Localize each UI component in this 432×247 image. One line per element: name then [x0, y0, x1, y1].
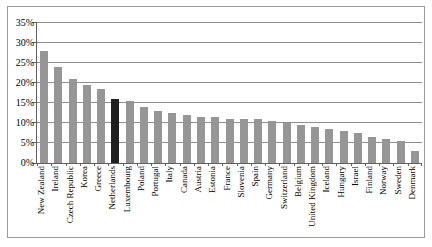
y-label-0%: 0% [8, 157, 34, 168]
x-axis-labels: New ZealandIrelandCzech RepublicKoreaGre… [36, 166, 421, 236]
x-label-spain: Spain [250, 166, 260, 191]
x-label-korea: Korea [79, 166, 89, 192]
x-label-text: Belgium [293, 166, 303, 197]
x-label-text: Switzerland [279, 166, 289, 209]
bar-greece [97, 89, 105, 163]
x-label-text: Portugal [150, 166, 160, 197]
y-label-35%: 35% [8, 17, 34, 28]
x-label-text: United Kingdom [307, 166, 317, 227]
x-label-text: Estonia [207, 166, 217, 193]
x-label-slovenia: Slovenia [236, 166, 246, 202]
x-label-portugal: Portugal [150, 166, 160, 201]
bar-korea [83, 85, 91, 163]
bar-france [226, 119, 234, 163]
bar-germany [268, 121, 276, 163]
bar-czech-republic [69, 79, 77, 163]
bar-iceland [325, 129, 333, 163]
bar-slovenia [240, 119, 248, 163]
y-label-15%: 15% [8, 97, 34, 108]
x-label-ireland: Ireland [50, 166, 60, 195]
y-label-10%: 10% [8, 117, 34, 128]
bar-belgium [297, 125, 305, 163]
x-label-text: Denmark [407, 166, 417, 200]
bar-netherlands [111, 99, 119, 163]
bar-austria [197, 117, 205, 163]
x-label-norway: Norway [378, 166, 388, 199]
bar-finland [368, 137, 376, 163]
bar-canada [183, 115, 191, 163]
y-label-20%: 20% [8, 77, 34, 88]
x-label-text: New Zealand [36, 166, 46, 214]
bar-luxembourg [126, 101, 134, 163]
gridline-20% [37, 82, 422, 83]
bar-hungary [340, 131, 348, 163]
bar-portugal [154, 111, 162, 163]
bar-poland [140, 107, 148, 163]
x-label-text: Greece [93, 166, 103, 191]
x-label-belgium: Belgium [293, 166, 303, 201]
x-label-greece: Greece [93, 166, 103, 195]
x-label-text: Finland [364, 166, 374, 194]
x-label-hungary: Hungary [336, 166, 346, 202]
x-label-switzerland: Switzerland [279, 166, 289, 213]
y-label-30%: 30% [8, 37, 34, 48]
x-label-estonia: Estonia [207, 166, 217, 197]
gridline-15% [37, 102, 422, 103]
x-label-text: Hungary [336, 166, 346, 198]
y-label-25%: 25% [8, 57, 34, 68]
x-label-text: Sweden [393, 166, 403, 195]
bar-switzerland [283, 123, 291, 163]
bar-italy [168, 113, 176, 163]
x-label-sweden: Sweden [393, 166, 403, 199]
x-label-text: Netherlands [107, 166, 117, 209]
x-label-israel: Israel [350, 166, 360, 190]
x-label-text: Luxembourg [122, 166, 132, 212]
y-label-5%: 5% [8, 137, 34, 148]
x-label-new-zealand: New Zealand [36, 166, 46, 218]
x-label-text: Slovenia [236, 166, 246, 198]
x-label-italy: Italy [164, 166, 174, 187]
bar-denmark [411, 151, 419, 163]
bar-sweden [397, 141, 405, 163]
bar-norway [382, 139, 390, 163]
x-label-text: Korea [79, 166, 89, 188]
x-label-text: Norway [378, 166, 388, 195]
x-label-text: Czech Republic [65, 166, 75, 223]
x-label-text: Iceland [321, 166, 331, 192]
x-label-denmark: Denmark [407, 166, 417, 204]
x-label-poland: Poland [136, 166, 146, 195]
x-label-text: Italy [164, 166, 174, 183]
y-axis-labels: 0%5%10%15%20%25%30%35% [8, 23, 34, 163]
x-label-text: Spain [250, 166, 260, 187]
x-tick [421, 163, 422, 166]
x-label-czech-republic: Czech Republic [65, 166, 75, 227]
bar-israel [354, 133, 362, 163]
x-label-united-kingdom: United Kingdom [307, 166, 317, 231]
bar-new-zealand [40, 51, 48, 163]
x-label-text: Canada [179, 166, 189, 193]
x-label-luxembourg: Luxembourg [122, 166, 132, 216]
x-label-austria: Austria [193, 166, 203, 197]
gridline-35% [37, 22, 422, 23]
bar-spain [254, 119, 262, 163]
x-label-text: Israel [350, 166, 360, 186]
x-label-text: Austria [193, 166, 203, 193]
x-label-text: Poland [136, 166, 146, 191]
x-label-text: France [222, 166, 232, 191]
bar-ireland [54, 67, 62, 163]
x-label-france: France [222, 166, 232, 195]
bar-united-kingdom [311, 127, 319, 163]
x-label-finland: Finland [364, 166, 374, 198]
x-label-text: Ireland [50, 166, 60, 191]
chart-frame: 0%5%10%15%20%25%30%35% New ZealandIrelan… [7, 6, 425, 238]
x-label-text: Germany [264, 166, 274, 200]
bar-estonia [211, 117, 219, 163]
gridline-25% [37, 62, 422, 63]
x-label-iceland: Iceland [321, 166, 331, 196]
plot-area [36, 23, 422, 164]
x-label-germany: Germany [264, 166, 274, 204]
x-label-netherlands: Netherlands [107, 166, 117, 213]
gridline-30% [37, 42, 422, 43]
x-label-canada: Canada [179, 166, 189, 197]
